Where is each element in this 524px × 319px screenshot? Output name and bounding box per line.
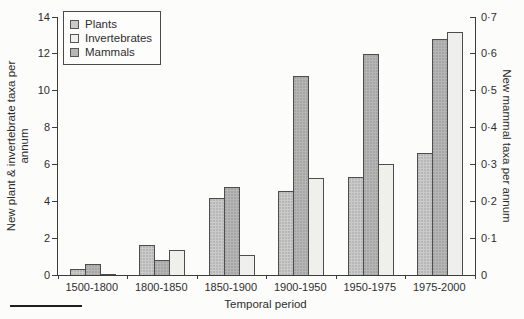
left-axis-tick <box>52 238 57 239</box>
bar-invertebrates-1800-1850 <box>169 250 185 275</box>
bar-mammals-1975-2000 <box>432 39 448 275</box>
bar-plants-1900-1950 <box>278 191 294 275</box>
bar-invertebrates-1500-1800 <box>100 274 116 275</box>
x-axis-tick <box>266 275 267 279</box>
legend-label: Plants <box>85 18 117 30</box>
left-axis-tick <box>52 201 57 202</box>
bar-invertebrates-1950-1975 <box>378 164 394 275</box>
bar-plants-1500-1800 <box>70 269 86 275</box>
bar-mammals-1900-1950 <box>293 76 309 275</box>
legend-label: Invertebrates <box>85 32 152 44</box>
legend: PlantsInvertebratesMammals <box>63 11 161 65</box>
x-axis-category-label: 1850-1900 <box>196 281 266 294</box>
left-axis-tick-label: 14 <box>26 12 50 23</box>
right-axis-tick-label: 0·2 <box>481 196 511 207</box>
left-axis-tick-label: 2 <box>26 233 50 244</box>
left-axis-tick <box>52 275 57 276</box>
left-axis-tick-label: 6 <box>26 159 50 170</box>
right-axis-tick <box>470 17 475 18</box>
legend-swatch-icon <box>70 48 79 57</box>
right-axis-tick <box>470 164 475 165</box>
x-axis-category-label: 1500-1800 <box>57 281 127 294</box>
right-axis-tick <box>470 201 475 202</box>
legend-label: Mammals <box>85 46 135 58</box>
x-axis-title: Temporal period <box>57 298 474 310</box>
x-axis-category-label: 1800-1850 <box>127 281 197 294</box>
right-axis-tick <box>470 127 475 128</box>
bar-plants-1950-1975 <box>348 177 364 275</box>
legend-item-invertebrates: Invertebrates <box>70 31 152 45</box>
left-axis-tick-label: 0 <box>26 270 50 281</box>
left-axis-tick <box>52 127 57 128</box>
left-axis-tick-label: 8 <box>26 122 50 133</box>
right-axis-tick-label: 0·3 <box>481 159 511 170</box>
bar-mammals-1950-1975 <box>363 54 379 275</box>
legend-swatch-icon <box>70 34 79 43</box>
x-axis-category-label: 1950-1975 <box>335 281 405 294</box>
bar-plants-1850-1900 <box>209 198 225 275</box>
left-axis-title-line1: New plant & invertebrate taxa per <box>5 17 18 275</box>
left-axis-tick-label: 4 <box>26 196 50 207</box>
caption-rule <box>10 305 82 307</box>
x-axis-tick <box>127 275 128 279</box>
legend-swatch-icon <box>70 20 79 29</box>
x-axis-tick <box>197 275 198 279</box>
bar-invertebrates-1850-1900 <box>239 255 255 275</box>
bar-mammals-1800-1850 <box>154 260 170 275</box>
bar-mammals-1850-1900 <box>224 187 240 275</box>
right-axis-tick-label: 0·1 <box>481 233 511 244</box>
right-axis-tick <box>470 53 475 54</box>
x-axis-category-label: 1975-2000 <box>405 281 475 294</box>
right-axis-tick-label: 0·4 <box>481 122 511 133</box>
x-axis-tick <box>58 275 59 279</box>
bar-mammals-1500-1800 <box>85 264 101 275</box>
left-axis-tick-label: 12 <box>26 48 50 59</box>
bar-plants-1975-2000 <box>417 153 433 275</box>
x-axis-tick <box>336 275 337 279</box>
left-axis-tick <box>52 90 57 91</box>
figure: New plant & invertebrate taxa per annum … <box>0 0 524 319</box>
left-axis-tick-label: 10 <box>26 85 50 96</box>
left-axis-tick <box>52 164 57 165</box>
right-axis-tick <box>470 238 475 239</box>
right-axis-tick-label: 0·6 <box>481 48 511 59</box>
x-axis-tick <box>475 275 476 279</box>
bar-invertebrates-1975-2000 <box>447 32 463 275</box>
right-axis-tick-label: 0·5 <box>481 85 511 96</box>
right-axis-tick <box>470 90 475 91</box>
x-axis-tick <box>405 275 406 279</box>
left-axis-tick <box>52 53 57 54</box>
left-axis-tick <box>52 17 57 18</box>
right-axis-tick-label: 0·7 <box>481 12 511 23</box>
bar-plants-1800-1850 <box>139 245 155 275</box>
right-axis-tick-label: 0 <box>481 270 511 281</box>
bar-invertebrates-1900-1950 <box>308 178 324 275</box>
x-axis-category-label: 1900-1950 <box>266 281 336 294</box>
legend-item-plants: Plants <box>70 17 152 31</box>
legend-item-mammals: Mammals <box>70 45 152 59</box>
